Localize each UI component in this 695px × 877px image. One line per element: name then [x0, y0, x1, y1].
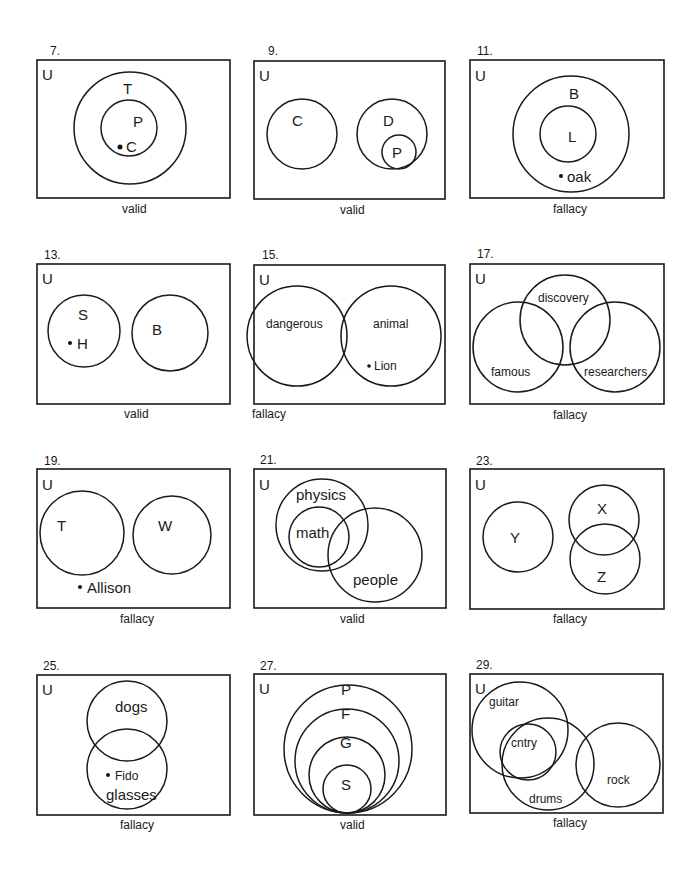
label-animal: animal	[373, 317, 408, 331]
label-Y: Y	[510, 529, 520, 546]
set-W-circle	[133, 496, 211, 574]
universe-box	[254, 469, 446, 608]
label-B: B	[569, 85, 579, 102]
universe-label: U	[259, 680, 270, 697]
verdict: valid	[122, 202, 147, 216]
label-people: people	[353, 571, 398, 588]
label-P: P	[133, 113, 143, 130]
verdict: fallacy	[553, 816, 587, 830]
panel-number: 9.	[268, 44, 278, 58]
label-discovery: discovery	[538, 291, 589, 305]
label-C: C	[126, 138, 137, 155]
verdict: fallacy	[553, 408, 587, 422]
set-C-circle	[267, 99, 337, 169]
label-P: P	[392, 144, 402, 161]
panel-number: 21.	[260, 453, 277, 467]
panel-number: 29.	[476, 658, 493, 672]
element-dot	[78, 585, 82, 589]
panel-number: 17.	[477, 247, 494, 261]
label-glasses: glasses	[106, 786, 157, 803]
label-D: D	[383, 112, 394, 129]
element-dot	[367, 364, 371, 368]
label-dogs: dogs	[115, 698, 148, 715]
panel-13: 13. U S H B valid	[37, 248, 230, 421]
universe-box	[470, 469, 664, 609]
panel-number: 11.	[477, 44, 493, 58]
label-Allison: Allison	[87, 579, 131, 596]
element-dot	[68, 341, 72, 345]
label-researchers: researchers	[584, 365, 647, 379]
set-B-circle	[132, 295, 208, 371]
label-guitar: guitar	[489, 695, 519, 709]
label-G: G	[340, 734, 352, 751]
set-cntry-circle	[500, 724, 556, 780]
set-X-circle	[569, 485, 639, 555]
label-dangerous: dangerous	[266, 317, 323, 331]
label-X: X	[597, 500, 607, 517]
universe-label: U	[475, 270, 486, 287]
verdict: fallacy	[252, 407, 286, 421]
universe-label: U	[259, 271, 270, 288]
universe-label: U	[259, 67, 270, 84]
verdict: fallacy	[120, 612, 154, 626]
label-oak: oak	[567, 168, 592, 185]
label-physics: physics	[296, 486, 346, 503]
set-rock-circle	[576, 723, 660, 807]
verdict: valid	[340, 203, 365, 217]
verdict: fallacy	[553, 202, 587, 216]
universe-label: U	[42, 681, 53, 698]
label-F: F	[341, 705, 350, 722]
panel-number: 15.	[262, 248, 279, 262]
panel-9: 9. U C D P valid	[254, 44, 445, 217]
label-Lion: Lion	[374, 359, 397, 373]
universe-box	[254, 61, 445, 199]
universe-label: U	[42, 270, 53, 287]
panel-number: 25.	[43, 659, 60, 673]
set-F-circle	[295, 709, 399, 813]
element-dot	[559, 174, 563, 178]
label-T: T	[57, 517, 66, 534]
label-C: C	[292, 112, 303, 129]
universe-label: U	[475, 680, 486, 697]
panel-19: 19. U T W Allison fallacy	[37, 454, 230, 626]
panel-25: 25. U dogs Fido glasses fallacy	[37, 659, 230, 832]
verdict: valid	[340, 612, 365, 626]
set-discovery-circle	[520, 275, 610, 365]
universe-label: U	[259, 476, 270, 493]
panel-15: 15. U dangerous animal Lion fallacy	[247, 248, 445, 421]
label-L: L	[568, 128, 576, 145]
label-Z: Z	[597, 568, 606, 585]
label-famous: famous	[491, 365, 530, 379]
label-cntry: cntry	[511, 736, 537, 750]
verdict: valid	[124, 407, 149, 421]
label-H: H	[77, 335, 88, 352]
set-dogs-circle	[87, 681, 167, 761]
panel-number: 23.	[476, 454, 493, 468]
label-S: S	[341, 776, 351, 793]
panel-11: 11. U B L oak fallacy	[470, 44, 664, 216]
element-dot	[118, 145, 123, 150]
panel-7: 7. U T P C valid	[37, 44, 230, 216]
label-S: S	[78, 306, 88, 323]
label-W: W	[158, 517, 173, 534]
label-math: math	[296, 524, 329, 541]
element-dot	[106, 773, 110, 777]
label-rock: rock	[607, 773, 631, 787]
verdict: valid	[340, 818, 365, 832]
panel-number: 7.	[50, 44, 60, 58]
label-T: T	[123, 80, 132, 97]
panel-number: 27.	[260, 659, 277, 673]
universe-label: U	[42, 66, 53, 83]
universe-label: U	[475, 67, 486, 84]
label-drums: drums	[529, 792, 562, 806]
universe-label: U	[42, 476, 53, 493]
panel-21: 21. U physics math people valid	[254, 453, 446, 626]
universe-box	[37, 264, 230, 404]
panel-number: 13.	[44, 248, 61, 262]
panel-27: 27. U P F G S valid	[254, 659, 446, 832]
verdict: fallacy	[120, 818, 154, 832]
set-dangerous-circle	[247, 286, 347, 386]
panel-17: 17. U discovery famous researchers falla…	[470, 247, 664, 422]
universe-label: U	[475, 476, 486, 493]
panel-29: 29. U guitar cntry drums rock fallacy	[470, 658, 663, 830]
